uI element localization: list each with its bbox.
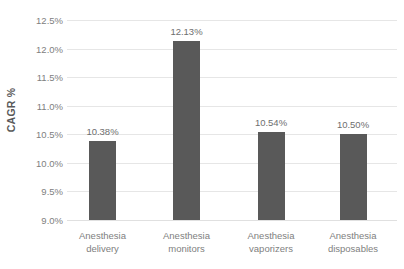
x-axis-category-label: Anesthesiavaporizers xyxy=(225,230,317,255)
category-label-line: Anesthesia xyxy=(225,230,317,243)
bar xyxy=(258,132,285,220)
gridline xyxy=(67,49,397,50)
bar-value-label: 10.54% xyxy=(236,117,306,128)
clipped-footer-caption xyxy=(0,262,404,269)
y-axis-title: CAGR % xyxy=(5,80,17,140)
gridline xyxy=(67,20,397,21)
y-axis-tick-label: 12.0% xyxy=(17,43,63,54)
category-label-line: Anesthesia xyxy=(307,230,399,243)
y-axis-tick-label: 9.5% xyxy=(17,186,63,197)
gridline xyxy=(67,77,397,78)
y-axis-tick-label: 10.0% xyxy=(17,157,63,168)
y-axis-tick-label: 12.5% xyxy=(17,15,63,26)
y-axis-tick-label: 9.0% xyxy=(17,215,63,226)
category-label-line: Anesthesia xyxy=(57,230,149,243)
gridline xyxy=(67,106,397,107)
category-label-line: Anesthesia xyxy=(141,230,233,243)
bar-value-label: 10.38% xyxy=(68,126,138,137)
bar-value-label: 12.13% xyxy=(152,26,222,37)
category-label-line: vaporizers xyxy=(225,243,317,256)
bar xyxy=(340,134,367,220)
y-axis-tick-label: 11.5% xyxy=(17,72,63,83)
x-axis-category-label: Anesthesiadelivery xyxy=(57,230,149,255)
x-axis-category-label: Anesthesiamonitors xyxy=(141,230,233,255)
y-axis-tick-label: 11.0% xyxy=(17,100,63,111)
bar-value-label: 10.50% xyxy=(318,119,388,130)
gridline xyxy=(67,220,397,221)
bar xyxy=(89,141,116,220)
bar-chart: CAGR % 12.5%12.0%11.5%11.0%10.5%10.0%9.5… xyxy=(0,0,404,269)
category-label-line: delivery xyxy=(57,243,149,256)
bar xyxy=(173,41,200,220)
y-axis-tick-label: 10.5% xyxy=(17,129,63,140)
category-label-line: disposables xyxy=(307,243,399,256)
category-label-line: monitors xyxy=(141,243,233,256)
x-axis-category-label: Anesthesiadisposables xyxy=(307,230,399,255)
